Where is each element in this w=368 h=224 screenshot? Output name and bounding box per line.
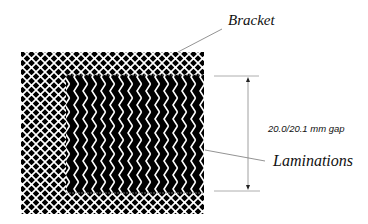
laminations-label: Laminations: [273, 152, 353, 170]
bracket-leader-line: [178, 29, 222, 52]
bracket-label: Bracket: [228, 12, 275, 29]
laminations-block: [66, 75, 204, 193]
laminations-leader-line: [205, 150, 265, 161]
bracket-lamination-diagram: [0, 0, 368, 224]
gap-dimension-label: 20.0/20.1 mm gap: [268, 123, 345, 134]
dimension-arrow-up-icon: [246, 77, 250, 82]
dimension-arrow-down-icon: [246, 185, 250, 190]
